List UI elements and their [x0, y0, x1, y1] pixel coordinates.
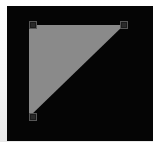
selection-handle-top-left[interactable] — [29, 21, 37, 29]
drawing-canvas[interactable] — [7, 6, 153, 141]
selection-handle-top-right[interactable] — [120, 21, 128, 29]
triangle-polygon[interactable] — [29, 25, 124, 117]
shape-layer — [7, 6, 153, 141]
app-root — [0, 0, 153, 142]
selection-handle-bottom-left[interactable] — [29, 113, 37, 121]
